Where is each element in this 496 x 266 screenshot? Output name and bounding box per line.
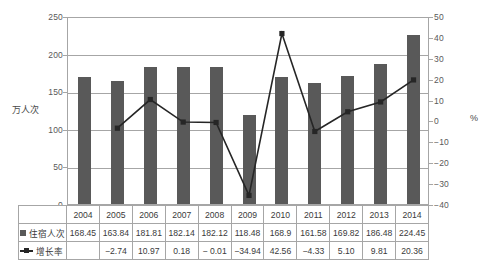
y-tick-right--10: −10 <box>434 137 468 147</box>
marker-2013 <box>378 99 383 104</box>
chart-container: 万人次 % 250200150100500 50403020100−10−20−… <box>0 0 496 266</box>
table-value-2008: 182.12 <box>198 224 231 242</box>
table-value-2007: 182.14 <box>165 224 198 242</box>
legend-label-bar: 住宿人次 <box>29 227 65 239</box>
plot-area <box>67 17 429 205</box>
table-row-value: 住宿人次 168.45163.84181.81182.14182.12118.4… <box>19 224 429 242</box>
marker-2011 <box>312 129 317 134</box>
table-value-2012: 169.82 <box>330 224 363 242</box>
y-tick-right--20: −20 <box>434 158 468 168</box>
table-growth-2004 <box>67 242 100 260</box>
table-year-2006: 2006 <box>132 206 165 224</box>
table-year-2014: 2014 <box>396 206 429 224</box>
marker-2014 <box>411 77 416 82</box>
table-year-2009: 2009 <box>231 206 264 224</box>
y-tick-left-150: 150 <box>29 87 63 97</box>
y-tick-right--30: −30 <box>434 179 468 189</box>
table-value-2014: 224.45 <box>396 224 429 242</box>
legend-label-line: 增长率 <box>36 245 63 257</box>
y-tick-right-30: 30 <box>434 54 468 64</box>
table-corner-blank <box>19 206 67 224</box>
table-growth-2005: −2.74 <box>99 242 132 260</box>
y-tick-left-50: 50 <box>29 162 63 172</box>
table-growth-2010: 42.56 <box>264 242 297 260</box>
table-year-2005: 2005 <box>99 206 132 224</box>
marker-2007 <box>181 119 186 124</box>
table-value-2006: 181.81 <box>132 224 165 242</box>
y-tick-right-0: 0 <box>434 116 468 126</box>
marker-2005 <box>115 126 120 131</box>
table-growth-2012: 5.10 <box>330 242 363 260</box>
table-growth-2013: 9.81 <box>363 242 396 260</box>
y-tick-left-200: 200 <box>29 50 63 60</box>
table-year-2012: 2012 <box>330 206 363 224</box>
table-year-2011: 2011 <box>297 206 330 224</box>
table-value-2004: 168.45 <box>67 224 100 242</box>
table-value-2013: 186.48 <box>363 224 396 242</box>
table-value-2011: 161.58 <box>297 224 330 242</box>
square-marker-icon <box>20 230 26 236</box>
y-tick-right-40: 40 <box>434 33 468 43</box>
marker-2012 <box>345 109 350 114</box>
y-tick-right-20: 20 <box>434 75 468 85</box>
data-table: 2004200520062007200820092010201120122013… <box>18 205 429 260</box>
table-growth-2009: −34.94 <box>231 242 264 260</box>
legend-cell-bar: 住宿人次 <box>19 224 67 242</box>
legend-cell-line: 增长率 <box>19 242 67 260</box>
table-year-2004: 2004 <box>67 206 100 224</box>
table-value-2009: 118.48 <box>231 224 264 242</box>
table-year-2010: 2010 <box>264 206 297 224</box>
marker-2006 <box>148 97 153 102</box>
table-value-2010: 168.9 <box>264 224 297 242</box>
growth-rate-polyline <box>117 34 413 196</box>
y-tick-left-100: 100 <box>29 125 63 135</box>
table-growth-2006: 10.97 <box>132 242 165 260</box>
table-year-2008: 2008 <box>198 206 231 224</box>
y-axis-left-title: 万人次 <box>12 103 39 116</box>
marker-2008 <box>213 120 218 125</box>
table-row-years: 2004200520062007200820092010201120122013… <box>19 206 429 224</box>
y-tick-right-50: 50 <box>434 12 468 22</box>
line-series-增长率 <box>68 18 430 206</box>
table-growth-2008: − 0.01 <box>198 242 231 260</box>
table-row-growth: 增长率 −2.7410.970.18− 0.01−34.9442.56−4.33… <box>19 242 429 260</box>
table-growth-2007: 0.18 <box>165 242 198 260</box>
table-growth-2014: 20.36 <box>396 242 429 260</box>
table-year-2007: 2007 <box>165 206 198 224</box>
y-tick-right--40: −40 <box>434 200 468 210</box>
table-growth-2011: −4.33 <box>297 242 330 260</box>
y-tick-left-250: 250 <box>29 12 63 22</box>
data-table-wrapper: 2004200520062007200820092010201120122013… <box>18 205 429 260</box>
y-axis-right-title: % <box>470 113 478 123</box>
line-marker-icon <box>20 248 33 254</box>
table-value-2005: 163.84 <box>99 224 132 242</box>
y-tick-right-10: 10 <box>434 96 468 106</box>
table-year-2013: 2013 <box>363 206 396 224</box>
marker-2009 <box>246 193 251 198</box>
marker-2010 <box>279 31 284 36</box>
